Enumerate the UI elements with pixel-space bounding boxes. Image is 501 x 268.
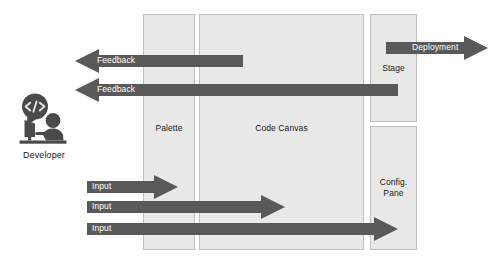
arrow-input-to-code-canvas[interactable]: Input <box>87 195 285 219</box>
arrow-input-to-config-pane[interactable]: Input <box>87 217 398 241</box>
developer-label: Developer <box>8 150 80 160</box>
panel-config-pane-label: Config. Pane <box>380 177 408 198</box>
arrow-feedback-from-stage-label: Feedback <box>97 85 135 94</box>
panel-palette-label: Palette <box>155 123 182 134</box>
arrow-deployment[interactable]: Deployment <box>386 36 488 60</box>
arrow-input-to-palette-label: Input <box>92 182 111 191</box>
arrow-feedback-from-code-canvas-label: Feedback <box>97 56 135 65</box>
diagram-canvas: Palette Code Canvas Stage Config. Pane <box>0 0 501 268</box>
arrow-input-to-code-canvas-label: Input <box>92 202 111 211</box>
arrow-input-to-config-pane-label: Input <box>92 224 111 233</box>
panel-code-canvas-label: Code Canvas <box>255 123 308 134</box>
developer-at-desk-icon <box>13 92 75 148</box>
panel-config-pane-label-line2: Pane <box>383 188 403 198</box>
panel-config-pane-label-line1: Config. <box>380 177 408 187</box>
arrow-feedback-from-stage[interactable]: Feedback <box>75 78 398 102</box>
panel-stage-label: Stage <box>382 63 405 74</box>
arrow-deployment-label: Deployment <box>412 43 458 52</box>
developer-actor[interactable]: Developer <box>8 92 80 168</box>
arrow-feedback-from-code-canvas[interactable]: Feedback <box>75 49 243 73</box>
panel-stage[interactable]: Stage <box>370 14 417 122</box>
